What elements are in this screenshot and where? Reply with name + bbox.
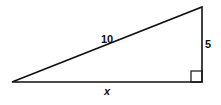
vertical-leg-label: 5 <box>205 38 211 50</box>
horizontal-leg-label: x <box>103 85 111 97</box>
right-triangle-diagram: 10 5 x <box>0 0 221 105</box>
right-angle-marker <box>191 71 202 82</box>
hypotenuse-label: 10 <box>101 33 113 45</box>
